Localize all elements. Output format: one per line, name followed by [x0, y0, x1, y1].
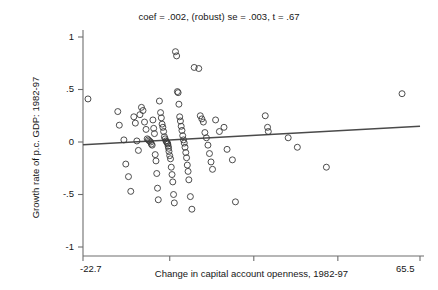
data-point — [186, 177, 192, 183]
data-point — [137, 112, 143, 118]
data-point — [142, 119, 148, 125]
data-point — [171, 192, 177, 198]
y-axis-tick-label: -.5 — [40, 188, 74, 199]
data-point — [135, 147, 141, 153]
data-point — [143, 126, 149, 132]
data-point — [169, 172, 175, 178]
axes — [78, 30, 424, 261]
y-axis-tick-label: -1 — [40, 241, 74, 252]
data-point — [221, 124, 227, 130]
data-point — [265, 124, 271, 130]
data-point — [177, 114, 183, 120]
y-axis-tick-label: 1 — [40, 31, 74, 42]
data-point — [229, 157, 235, 163]
data-point — [154, 171, 160, 177]
data-point — [125, 174, 131, 180]
data-point — [150, 117, 156, 123]
data-point — [323, 164, 329, 170]
data-point — [210, 166, 216, 172]
data-point — [265, 129, 271, 135]
y-axis-tick-label: 0 — [40, 136, 74, 147]
data-point — [153, 158, 159, 164]
data-point — [285, 135, 291, 141]
data-point — [174, 53, 180, 59]
x-axis-tick-label: -22.7 — [80, 263, 102, 274]
data-point — [185, 168, 191, 174]
y-axis-tick-label: .5 — [40, 83, 74, 94]
data-point — [399, 91, 405, 97]
data-point — [131, 114, 137, 120]
data-point — [152, 152, 158, 158]
data-point — [187, 194, 193, 200]
data-point — [171, 200, 177, 206]
data-point — [155, 197, 161, 203]
data-point — [155, 185, 161, 191]
data-point — [224, 146, 230, 152]
regression-line — [83, 126, 420, 145]
data-point — [168, 164, 174, 170]
data-point — [128, 188, 134, 194]
data-points — [85, 49, 405, 213]
regression-line-path — [83, 126, 420, 145]
data-point — [184, 162, 190, 168]
data-point — [85, 96, 91, 102]
data-point — [189, 206, 195, 212]
data-point — [116, 122, 122, 128]
data-point — [213, 117, 219, 123]
data-point — [123, 161, 129, 167]
data-point — [132, 120, 138, 126]
data-point — [208, 159, 214, 165]
data-point — [172, 49, 178, 55]
data-point — [170, 179, 176, 185]
scatter-plot-figure: coef = .002, (robust) se = .003, t = .67… — [0, 0, 438, 290]
data-point — [206, 151, 212, 157]
data-point — [156, 98, 162, 104]
data-point — [294, 144, 300, 150]
data-point — [205, 142, 211, 148]
x-axis-tick-label: 65.5 — [396, 263, 415, 274]
data-point — [176, 101, 182, 107]
data-point — [115, 109, 121, 115]
data-point — [262, 113, 268, 119]
data-point — [232, 199, 238, 205]
